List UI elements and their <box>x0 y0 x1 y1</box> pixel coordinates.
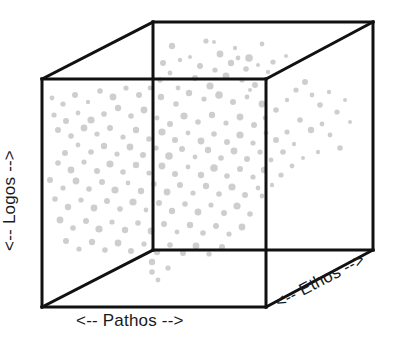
scatter-dot <box>133 162 139 168</box>
scatter-dot <box>273 107 279 113</box>
scatter-dot <box>149 259 155 265</box>
scatter-dot <box>257 149 262 154</box>
scatter-dot <box>301 156 305 160</box>
scatter-dot <box>284 54 288 58</box>
scatter-dot <box>218 155 224 161</box>
scatter-dot <box>86 186 92 192</box>
scatter-dot <box>65 204 71 210</box>
scatter-dot <box>248 88 252 92</box>
scatter-dot <box>285 98 289 102</box>
scatter-dot <box>327 90 331 94</box>
scatter-dot <box>223 120 228 125</box>
scatter-dot <box>136 92 142 98</box>
scatter-dot <box>63 118 69 124</box>
scatter-dot <box>129 198 136 205</box>
scatter-dot <box>190 190 195 195</box>
scatter-dot <box>55 127 61 133</box>
scatter-dot <box>126 181 131 186</box>
scatter-dot <box>211 131 217 137</box>
scatter-dot <box>78 197 83 202</box>
scatter-dot <box>94 168 100 174</box>
cube-wireframe <box>42 22 373 307</box>
scatter-dot <box>270 183 274 187</box>
scatter-dot <box>140 152 146 158</box>
scatter-dot <box>128 113 134 119</box>
scatter-dot <box>266 70 270 74</box>
scatter-dot <box>55 160 61 166</box>
scatter-dot <box>158 128 165 135</box>
scatter-dot <box>237 166 243 172</box>
scatter-dot <box>212 40 216 44</box>
scatter-dot <box>203 38 208 43</box>
cube-edge-depth-bottom-left <box>42 250 153 307</box>
scatter-dot <box>109 219 114 224</box>
scatter-dot <box>233 46 237 50</box>
scatter-dot <box>72 92 78 98</box>
scatter-dot <box>101 143 107 149</box>
scatter-dot <box>244 156 250 162</box>
scatter-dot <box>228 183 235 190</box>
scatter-dot <box>107 125 113 131</box>
cube-edge-depth-top-left <box>42 22 153 79</box>
scatter-dot <box>135 220 141 226</box>
scatter-dot <box>158 94 164 100</box>
scatter-dot <box>242 192 248 198</box>
scatter-dot <box>221 210 227 216</box>
scatter-dot <box>209 112 215 118</box>
scatter-dot <box>83 218 89 224</box>
scatter-dot <box>250 140 255 145</box>
scatter-dot <box>138 188 144 194</box>
scatter-dot <box>101 111 107 117</box>
scatter-dot <box>243 66 249 72</box>
scatter-dot <box>117 206 123 212</box>
scatter-dot <box>176 86 181 91</box>
scatter-dot <box>188 55 192 59</box>
scatter-dot <box>106 160 113 167</box>
scatter-dot <box>187 222 193 228</box>
scatter-dot <box>161 221 167 227</box>
scatter-dot <box>179 146 185 152</box>
scatter-dot <box>76 143 81 148</box>
scatter-dot <box>95 225 102 232</box>
scatter-dot <box>122 227 128 233</box>
scatter-dot <box>104 198 110 204</box>
scatter-dot <box>245 54 253 62</box>
scatter-dot <box>156 200 162 206</box>
scatter-dot <box>120 134 125 139</box>
scatter-dot <box>81 125 88 132</box>
scatter-dot <box>156 278 161 283</box>
scatter-dot <box>169 208 175 214</box>
scatter-dot <box>290 164 295 169</box>
scatter-dot <box>165 152 173 160</box>
scatter-dot <box>247 211 253 217</box>
scatter-dot <box>193 243 200 250</box>
cube-edge-depth-top-right <box>266 22 373 79</box>
scatter-dot <box>159 163 166 170</box>
scatter-dot <box>343 98 347 102</box>
scatter-dot <box>60 101 65 106</box>
scatter-dot <box>149 269 155 275</box>
scatter-dot <box>237 114 244 121</box>
scatter-dot <box>302 79 308 85</box>
scatter-dot <box>203 183 209 189</box>
scatter-dot <box>165 265 170 270</box>
scatter-dot <box>198 172 204 178</box>
scatter-dot <box>167 121 173 127</box>
scatter-dot <box>270 59 275 64</box>
scatter-dot <box>115 105 121 111</box>
scatter-dot <box>193 155 198 160</box>
scatter-dot <box>297 117 303 123</box>
axis-label-logos: <-- Logos --> <box>0 150 20 251</box>
scatter-dot <box>280 149 286 155</box>
scatter-dot <box>186 165 191 170</box>
scatter-dot <box>144 208 149 213</box>
scatter-dot <box>316 150 320 154</box>
scatter-dot <box>76 111 81 116</box>
scatter-dot <box>236 131 243 138</box>
scatter-dot <box>245 95 250 100</box>
scatter-dot <box>186 90 192 96</box>
scatter-dot <box>91 205 98 212</box>
figure-canvas: <-- Logos --> <-- Pathos --> <-- Ethos -… <box>0 0 395 349</box>
scatter-dot <box>195 119 201 125</box>
scatter-dot <box>198 138 205 145</box>
